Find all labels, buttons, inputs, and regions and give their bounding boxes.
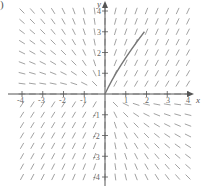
slope-segment [155, 154, 159, 159]
slope-segment [20, 122, 24, 128]
slope-segment [135, 174, 137, 180]
slope-segment [94, 8, 95, 15]
slope-segment [72, 101, 76, 107]
slope-segment [145, 60, 148, 66]
x-tick-label: 1 [124, 97, 128, 105]
slope-segment [135, 164, 138, 170]
slope-segment [124, 132, 127, 138]
slope-segment [175, 134, 181, 137]
slope-segment [144, 143, 148, 148]
slope-segment [31, 122, 35, 128]
slope-segment [31, 174, 34, 180]
slope-segment [145, 8, 147, 14]
slope-segment [50, 83, 57, 84]
slope-segment [155, 60, 158, 66]
slope-segment [164, 124, 170, 127]
slope-segment [185, 154, 190, 158]
slope-segment [31, 153, 34, 159]
slope-segment [51, 133, 54, 139]
slope-segment [155, 164, 159, 170]
slope-segment [115, 174, 116, 181]
slope-segment [83, 8, 85, 15]
slope-segment [31, 102, 35, 108]
slope-segment [154, 113, 160, 116]
slope-segment [94, 163, 96, 169]
slope-segment [124, 122, 128, 128]
slope-segment [29, 83, 36, 84]
slope-segment [135, 29, 138, 35]
slope-segment [73, 174, 76, 180]
slope-segment [62, 153, 65, 159]
slope-segment [19, 72, 26, 74]
slope-segment [176, 49, 179, 55]
slope-segment [155, 39, 158, 45]
slope-segment [62, 164, 65, 170]
slope-segment [60, 72, 66, 75]
slope-segment [176, 29, 179, 35]
slope-segment [51, 102, 55, 108]
slope-segment [165, 164, 169, 169]
slope-segment [19, 19, 24, 23]
slope-segment [155, 29, 158, 35]
slope-segment [41, 174, 44, 180]
slope-segment [62, 18, 65, 24]
slope-segment [83, 163, 86, 169]
slope-segment [41, 143, 44, 149]
slope-segment [134, 133, 138, 138]
slope-segment [40, 61, 46, 64]
slope-segment [186, 81, 190, 87]
slope-segment [83, 39, 86, 45]
slope-segment [20, 174, 23, 180]
x-tick-label: 2 [145, 97, 149, 105]
slope-segment [144, 133, 149, 138]
slope-segment [114, 18, 116, 25]
slope-segment [94, 60, 96, 66]
slope-segment [166, 29, 169, 35]
slope-segment [176, 8, 179, 14]
slope-segment [125, 153, 127, 159]
slope-segment [30, 19, 35, 24]
y-tick-label: 4 [97, 8, 101, 16]
slope-segment [19, 40, 25, 44]
slope-segment [72, 50, 76, 55]
slope-segment [52, 174, 55, 180]
slope-segment [52, 153, 55, 159]
panel-marker: ) [0, 0, 4, 10]
slope-segment [31, 143, 34, 149]
slope-segment [125, 8, 127, 15]
slope-segment [72, 112, 75, 118]
slope-segment [52, 143, 55, 149]
slope-segment [61, 50, 66, 55]
slope-segment [31, 133, 34, 139]
slope-segment [154, 133, 159, 137]
slope-segment [114, 28, 116, 35]
slope-segment [125, 163, 127, 170]
slope-segment [73, 18, 76, 24]
x-tick-label: -3 [38, 97, 45, 105]
slope-segment [166, 60, 169, 66]
slope-segment [134, 123, 139, 128]
slope-segment [174, 114, 181, 116]
slope-segment [125, 29, 127, 35]
slope-segment [115, 143, 116, 150]
slope-segment [41, 19, 45, 24]
slope-segment [61, 61, 66, 65]
slope-segment [154, 123, 160, 126]
slope-segment [72, 164, 75, 170]
slope-segment [145, 164, 148, 170]
slope-segment [82, 60, 86, 66]
slope-segment [185, 164, 190, 168]
slope-segment [124, 70, 127, 76]
y-tick-label: 1 [97, 70, 101, 78]
slope-segment [133, 103, 139, 105]
slope-segment [176, 70, 179, 76]
slope-segment [61, 39, 65, 44]
slope-segment [124, 81, 127, 87]
slope-segment [114, 60, 117, 66]
slope-segment [72, 39, 75, 45]
slope-segment [92, 81, 97, 86]
slope-segment [115, 8, 117, 15]
slope-segment [83, 122, 86, 128]
slope-segment [83, 153, 86, 159]
slope-segment [41, 164, 44, 170]
